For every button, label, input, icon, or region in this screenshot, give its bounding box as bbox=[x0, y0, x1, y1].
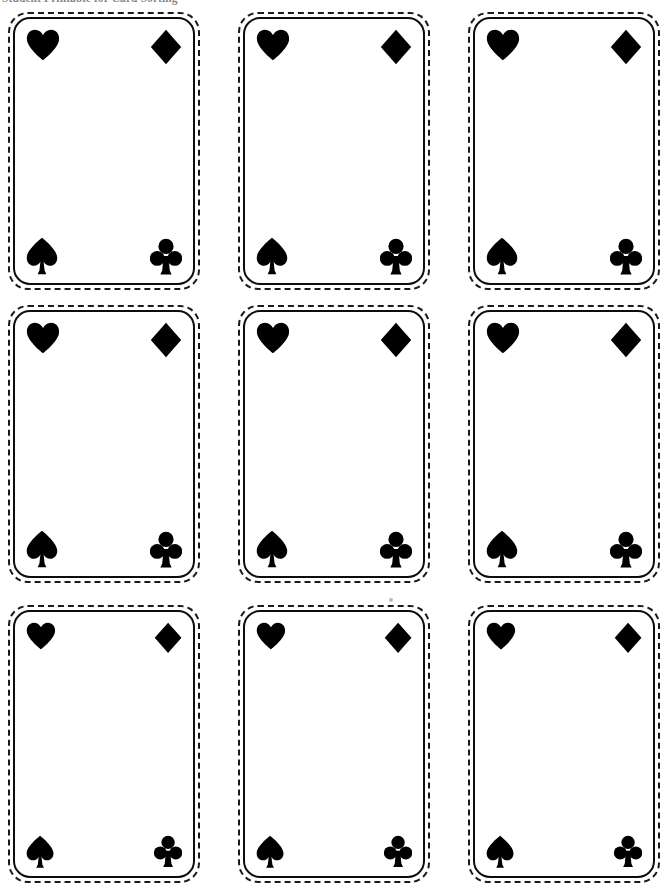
diamond-suit-icon bbox=[380, 29, 412, 65]
spade-suit-icon bbox=[256, 835, 284, 868]
club-suit-icon bbox=[380, 238, 412, 275]
card-face bbox=[13, 310, 195, 578]
diamond-suit-icon bbox=[150, 322, 182, 358]
scan-speck bbox=[389, 598, 393, 602]
spade-suit-icon bbox=[486, 237, 518, 275]
playing-card[interactable] bbox=[468, 12, 660, 290]
diamond-suit-icon bbox=[610, 322, 642, 358]
diamond-suit-icon bbox=[150, 29, 182, 65]
diamond-suit-icon bbox=[614, 622, 642, 654]
playing-card[interactable] bbox=[8, 12, 200, 290]
heart-suit-icon bbox=[256, 322, 290, 354]
heart-suit-icon bbox=[486, 322, 520, 354]
diamond-suit-icon bbox=[380, 322, 412, 358]
heart-suit-icon bbox=[256, 622, 286, 650]
spade-suit-icon bbox=[486, 835, 514, 868]
diamond-suit-icon bbox=[610, 29, 642, 65]
card-face bbox=[243, 17, 425, 285]
spade-suit-icon bbox=[486, 530, 518, 568]
card-face bbox=[473, 610, 655, 878]
sheet-header: Student Printable for Card Sorting bbox=[2, 0, 402, 6]
card-face bbox=[13, 610, 195, 878]
playing-card[interactable] bbox=[468, 605, 660, 883]
card-face bbox=[473, 310, 655, 578]
playing-card[interactable] bbox=[8, 305, 200, 583]
club-suit-icon bbox=[154, 835, 182, 868]
heart-suit-icon bbox=[26, 322, 60, 354]
page-title: Student Printable for Card Sorting bbox=[2, 0, 402, 5]
diamond-suit-icon bbox=[154, 622, 182, 654]
card-face bbox=[243, 610, 425, 878]
card-face bbox=[473, 17, 655, 285]
spade-suit-icon bbox=[26, 835, 54, 868]
card-grid bbox=[0, 0, 668, 892]
playing-card[interactable] bbox=[238, 305, 430, 583]
playing-card[interactable] bbox=[238, 12, 430, 290]
spade-suit-icon bbox=[256, 237, 288, 275]
spade-suit-icon bbox=[26, 530, 58, 568]
heart-suit-icon bbox=[26, 622, 56, 650]
spade-suit-icon bbox=[256, 530, 288, 568]
club-suit-icon bbox=[380, 531, 412, 568]
card-face bbox=[13, 17, 195, 285]
heart-suit-icon bbox=[486, 622, 516, 650]
club-suit-icon bbox=[610, 531, 642, 568]
diamond-suit-icon bbox=[384, 622, 412, 654]
club-suit-icon bbox=[384, 835, 412, 868]
playing-card[interactable] bbox=[238, 605, 430, 883]
club-suit-icon bbox=[150, 238, 182, 275]
club-suit-icon bbox=[614, 835, 642, 868]
card-face bbox=[243, 310, 425, 578]
club-suit-icon bbox=[150, 531, 182, 568]
playing-card[interactable] bbox=[468, 305, 660, 583]
heart-suit-icon bbox=[486, 29, 520, 61]
club-suit-icon bbox=[610, 238, 642, 275]
heart-suit-icon bbox=[256, 29, 290, 61]
spade-suit-icon bbox=[26, 237, 58, 275]
heart-suit-icon bbox=[26, 29, 60, 61]
playing-card[interactable] bbox=[8, 605, 200, 883]
